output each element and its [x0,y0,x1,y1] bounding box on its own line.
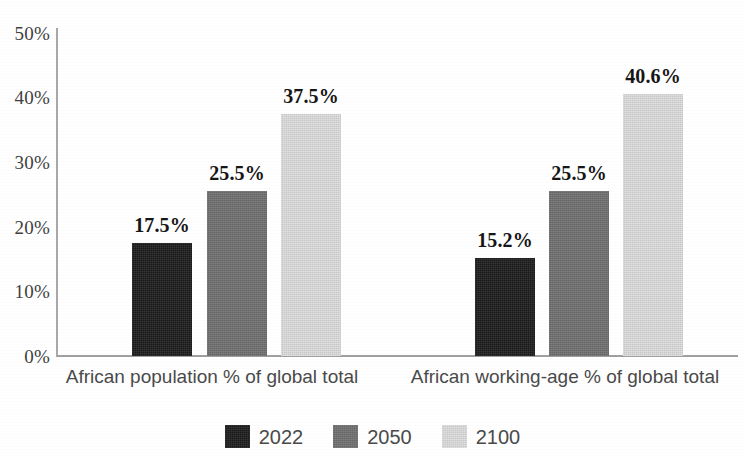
x-category-label-african-population: African population % of global total [62,367,362,388]
bar-2100-african-population[interactable] [281,114,341,356]
x-category-label-african-working-age: African working-age % of global total [405,367,725,388]
legend-swatch-2100-icon [442,425,467,448]
legend-label-2100: 2100 [476,427,521,447]
chart-legend: 2022 2050 2100 [0,425,745,448]
bar-value-2050-african-population: 25.5% [177,163,297,183]
bar-value-2022-african-working-age: 15.2% [445,230,565,250]
bar-2022-african-working-age[interactable] [475,258,535,356]
legend-item-2022[interactable]: 2022 [225,425,304,448]
legend-label-2022: 2022 [259,427,304,447]
legend-item-2100[interactable]: 2100 [442,425,521,448]
plot-area: 17.5% 25.5% 37.5% 15.2% 25.5% 40.6% [57,33,738,356]
y-tick-30: 30% [2,153,50,172]
bar-2050-african-working-age[interactable] [549,191,609,356]
bar-value-2100-african-working-age: 40.6% [593,66,713,86]
bar-value-2022-african-population: 17.5% [102,215,222,235]
y-tick-0: 0% [2,347,50,366]
legend-swatch-2050-icon [333,425,358,448]
y-axis-labels: 50% 40% 30% 20% 10% 0% [0,0,50,456]
y-tick-40: 40% [2,88,50,107]
bar-chart: 50% 40% 30% 20% 10% 0% 17.5% 25.5% 37.5%… [0,0,745,456]
y-tick-20: 20% [2,218,50,237]
legend-item-2050[interactable]: 2050 [333,425,412,448]
y-tick-10: 10% [2,282,50,301]
legend-swatch-2022-icon [225,425,250,448]
legend-label-2050: 2050 [367,427,412,447]
bar-value-2050-african-working-age: 25.5% [519,163,639,183]
bar-value-2100-african-population: 37.5% [251,86,371,106]
y-tick-50: 50% [2,24,50,43]
bar-2100-african-working-age[interactable] [623,94,683,356]
bar-2022-african-population[interactable] [132,243,192,356]
